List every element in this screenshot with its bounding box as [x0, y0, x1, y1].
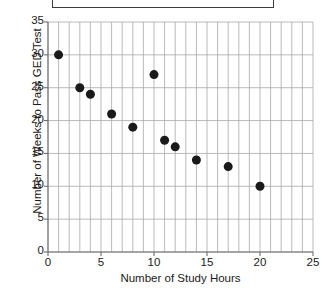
data-point: [75, 83, 84, 92]
data-point: [171, 142, 180, 151]
plot-area: [48, 22, 313, 252]
data-point: [107, 110, 116, 119]
data-point: [150, 70, 159, 79]
x-axis-tick-labels: 0510152025: [48, 256, 323, 272]
title-box: [52, 0, 274, 8]
plot-canvas: [48, 22, 313, 252]
axis-lines: [48, 22, 313, 252]
x-axis-tick-label: 15: [187, 256, 227, 268]
data-point: [224, 162, 233, 171]
grid-lines-vertical: [48, 22, 313, 252]
scatter-plot-figure: 05101520253035 0510152025 Number of Stud…: [0, 0, 330, 294]
x-axis-tick-label: 25: [293, 256, 330, 268]
data-point: [160, 136, 169, 145]
y-axis-tick-label: 0: [0, 244, 44, 256]
y-axis-title: Number of Weeks to Pass GED Test: [31, 11, 43, 231]
x-axis-tick-label: 5: [81, 256, 121, 268]
grid-lines-horizontal: [48, 22, 313, 252]
x-axis-tick-label: 0: [28, 256, 68, 268]
data-point: [128, 123, 137, 132]
data-point: [256, 182, 265, 191]
tick-marks: [44, 22, 313, 256]
data-point: [54, 50, 63, 59]
x-axis-title: Number of Study Hours: [48, 272, 313, 284]
x-axis-tick-label: 10: [134, 256, 174, 268]
data-point: [192, 156, 201, 165]
data-point: [86, 90, 95, 99]
x-axis-tick-label: 20: [240, 256, 280, 268]
